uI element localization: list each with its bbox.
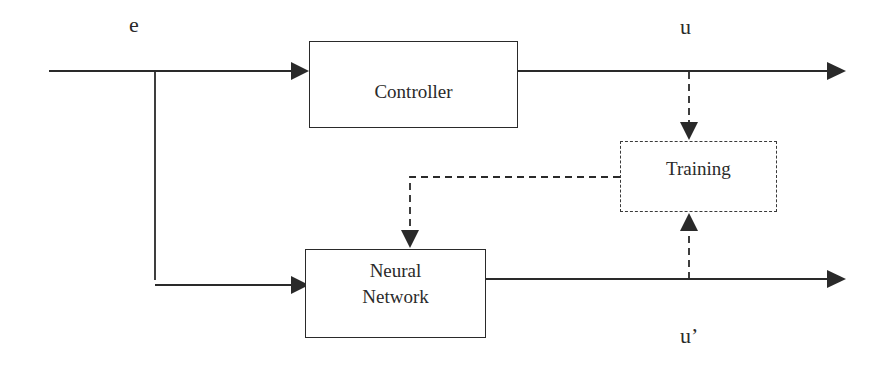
arrow-up-to-training-icon xyxy=(680,213,698,231)
arrow-down-to-nn-icon xyxy=(401,230,419,248)
arrow-output-u-prime-icon xyxy=(827,270,846,288)
training-block: Training xyxy=(620,141,777,212)
controller-label: Controller xyxy=(374,79,452,105)
controller-block: Controller xyxy=(309,41,518,128)
signal-label-u-prime: u’ xyxy=(680,323,698,349)
nn-label-line2: Network xyxy=(362,284,428,310)
training-to-nn-dashed xyxy=(410,177,620,231)
neural-network-block: Neural Network xyxy=(305,249,486,338)
training-label: Training xyxy=(666,156,731,182)
arrow-to-controller-icon xyxy=(291,62,309,80)
arrow-output-u-icon xyxy=(827,62,846,80)
nn-label-line1: Neural xyxy=(370,258,422,284)
arrow-down-to-training-icon xyxy=(680,122,698,140)
signal-label-e: e xyxy=(129,12,139,38)
signal-label-u: u xyxy=(680,14,691,40)
